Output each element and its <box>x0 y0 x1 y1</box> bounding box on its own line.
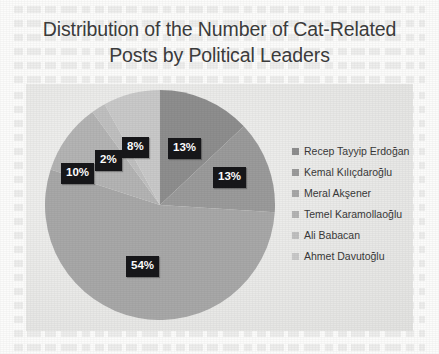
chart-title-line-1: Distribution of the Number of Cat-Relate… <box>22 16 417 42</box>
legend-item[interactable]: Temel Karamollaoğlu <box>292 204 434 225</box>
chart-title: Distribution of the Number of Cat-Relate… <box>0 16 439 68</box>
legend-swatch-icon <box>292 211 299 218</box>
legend-item[interactable]: Kemal Kılıçdaroğlu <box>292 162 434 183</box>
legend-item[interactable]: Ali Babacan <box>292 225 434 246</box>
legend: Recep Tayyip ErdoğanKemal KılıçdaroğluMe… <box>292 141 434 267</box>
legend-swatch-icon <box>292 169 299 176</box>
pie-chart-svg <box>45 90 275 320</box>
pie-slice-group <box>45 90 275 320</box>
legend-swatch-icon <box>292 232 299 239</box>
legend-item-label: Ali Babacan <box>304 230 360 241</box>
legend-item-label: Recep Tayyip Erdoğan <box>304 146 409 157</box>
pie-data-label: 13% <box>168 138 201 159</box>
legend-item[interactable]: Meral Akşener <box>292 183 434 204</box>
legend-item-label: Temel Karamollaoğlu <box>304 209 402 220</box>
pie-data-label: 13% <box>213 167 246 188</box>
legend-item-label: Kemal Kılıçdaroğlu <box>304 167 392 178</box>
pie-chart <box>45 90 275 320</box>
legend-item[interactable]: Ahmet Davutoğlu <box>292 246 434 267</box>
legend-swatch-icon <box>292 253 299 260</box>
pie-data-label: 54% <box>126 256 159 277</box>
legend-swatch-icon <box>292 190 299 197</box>
pie-data-label: 8% <box>122 137 149 158</box>
legend-item-label: Ahmet Davutoğlu <box>304 251 385 262</box>
legend-item[interactable]: Recep Tayyip Erdoğan <box>292 141 434 162</box>
pie-data-label: 2% <box>95 150 122 171</box>
chart-title-line-2: Posts by Political Leaders <box>22 42 417 68</box>
pie-data-label: 10% <box>61 163 94 184</box>
legend-swatch-icon <box>292 148 299 155</box>
legend-item-label: Meral Akşener <box>304 188 371 199</box>
